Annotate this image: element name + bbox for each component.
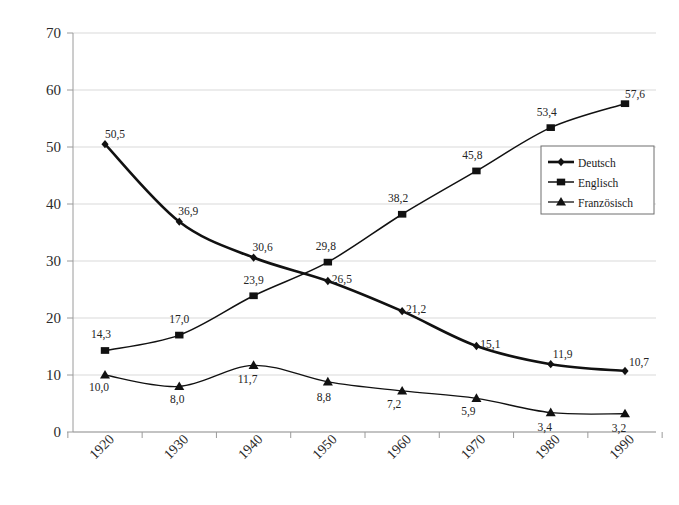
chart-background xyxy=(0,0,679,505)
data-point-label: 53,4 xyxy=(537,106,557,119)
y-axis-tick-label: 30 xyxy=(46,253,61,269)
data-point-label: 3,2 xyxy=(612,422,627,435)
data-point-marker xyxy=(101,347,109,354)
data-point-label: 7,2 xyxy=(387,398,402,411)
data-point-label: 8,0 xyxy=(170,393,185,406)
data-point-label: 23,9 xyxy=(244,274,264,287)
y-axis-tick-label: 60 xyxy=(46,82,61,98)
y-axis-tick-label: 0 xyxy=(54,424,62,440)
line-chart: 0102030405060701920193019401950196019701… xyxy=(0,0,679,505)
data-point-label: 5,9 xyxy=(461,405,476,418)
data-point-marker xyxy=(175,332,183,339)
data-point-label: 15,1 xyxy=(480,338,500,351)
data-point-marker xyxy=(557,179,565,186)
y-axis-tick-label: 10 xyxy=(46,367,61,383)
y-axis-tick-label: 50 xyxy=(46,139,61,155)
data-point-label: 26,5 xyxy=(332,273,352,286)
data-point-label: 50,5 xyxy=(105,128,125,141)
legend-label: Französisch xyxy=(578,197,633,209)
data-point-label: 10,0 xyxy=(89,381,109,394)
data-point-label: 11,9 xyxy=(553,348,573,361)
data-point-label: 14,3 xyxy=(91,328,111,341)
data-point-marker xyxy=(472,168,480,175)
y-axis-tick-label: 40 xyxy=(46,196,61,212)
y-axis-tick-label: 70 xyxy=(46,25,61,41)
data-point-label: 3,4 xyxy=(538,421,553,434)
data-point-label: 45,8 xyxy=(462,149,482,162)
data-point-label: 21,2 xyxy=(406,303,426,316)
data-point-label: 36,9 xyxy=(178,205,198,218)
legend-label: Deutsch xyxy=(578,157,616,169)
data-point-marker xyxy=(398,211,406,218)
chart-container: 0102030405060701920193019401950196019701… xyxy=(0,0,679,505)
data-point-label: 17,0 xyxy=(169,313,189,326)
data-point-label: 30,6 xyxy=(253,241,273,254)
data-point-marker xyxy=(547,124,555,131)
data-point-label: 10,7 xyxy=(629,356,649,369)
data-point-marker xyxy=(249,292,257,299)
y-axis-tick-label: 20 xyxy=(46,310,61,326)
data-point-label: 57,6 xyxy=(625,88,645,101)
chart-legend: DeutschEnglischFranzösisch xyxy=(541,146,654,214)
data-point-label: 29,8 xyxy=(316,240,336,253)
data-point-label: 38,2 xyxy=(388,192,408,205)
data-point-label: 11,7 xyxy=(238,373,258,386)
data-point-label: 8,8 xyxy=(317,391,332,404)
data-point-marker xyxy=(324,259,332,266)
legend-label: Englisch xyxy=(578,177,618,190)
data-point-marker xyxy=(621,100,629,107)
